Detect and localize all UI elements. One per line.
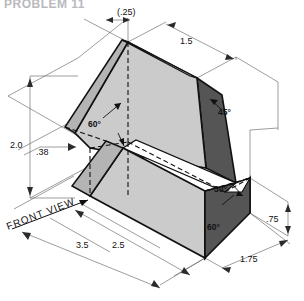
isometric-drawing: (.25) 1.5 2.0 .38 3.5 2.5 .75 1.75 60° 4…: [0, 0, 304, 301]
dim-left-offset: .38: [36, 147, 49, 157]
drawing-sheet: PROBLEM 11: [0, 0, 304, 301]
front-view-label: FRONT VIEW: [5, 196, 77, 232]
dim-base-length: 3.5: [76, 240, 89, 250]
angle-right-upper: 30°: [214, 184, 227, 194]
angle-left-face: 60°: [88, 119, 101, 129]
angle-right-top: 45°: [218, 107, 231, 117]
angle-right-lower: 60°: [207, 222, 220, 232]
dim-top-notch-width: (.25): [117, 7, 136, 17]
dim-top-right-length: 1.5: [180, 36, 193, 46]
dim-overall-height: 2.0: [10, 140, 23, 150]
dim-depth: 1.75: [240, 254, 258, 264]
dim-mid-length: 2.5: [112, 240, 125, 250]
dim-right-height: .75: [266, 214, 279, 224]
